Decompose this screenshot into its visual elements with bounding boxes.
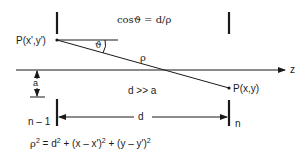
formula-y-exp: 2 xyxy=(147,137,151,144)
distance-formula: ρ2 = d2 + (x – x')2 + (y – y')2 xyxy=(30,139,151,149)
condition-label: d >> a xyxy=(128,86,156,96)
plane-right-label: n xyxy=(235,119,241,129)
rho-line xyxy=(57,40,229,88)
z-axis-label: z xyxy=(290,65,295,75)
source-point-label: P(x',y') xyxy=(16,36,46,46)
rho-label: ρ xyxy=(140,53,146,63)
source-point-dot xyxy=(55,38,58,41)
distance-label: d xyxy=(138,112,144,122)
plane-left-label: n – 1 xyxy=(28,117,50,127)
aperture-label: a xyxy=(33,79,38,88)
theta-label: ϑ xyxy=(95,41,101,50)
formula-y-term: + (y – y') xyxy=(106,138,147,149)
field-point-label: P(x,y) xyxy=(233,84,259,94)
theta-arc xyxy=(103,40,106,53)
field-point-dot xyxy=(227,86,230,89)
formula-eq: = d xyxy=(40,138,57,149)
formula-x-term: + (x – x') xyxy=(61,138,102,149)
cos-relation-label: cosϑ = d/ρ xyxy=(117,15,171,25)
